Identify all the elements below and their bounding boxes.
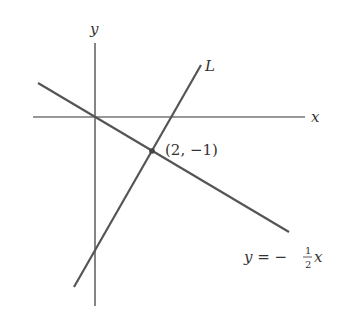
- point-label: (2, −1): [165, 141, 218, 159]
- intersection-point: [149, 148, 155, 154]
- x-axis-label: x: [311, 108, 320, 126]
- fraction-denominator: 2: [305, 259, 311, 270]
- line-equation-label: y = − 1 2 x: [243, 245, 323, 270]
- coordinate-diagram: y x L (2, −1) y = − 1 2 x: [0, 0, 339, 313]
- fraction-numerator: 1: [305, 245, 311, 256]
- line-L-label: L: [204, 57, 215, 75]
- line-y-equals-neg-half-x: [38, 83, 289, 232]
- equation-var: x: [314, 248, 323, 266]
- line-L: [74, 65, 201, 287]
- y-axis-label: y: [89, 20, 99, 38]
- equation-lhs: y = −: [243, 248, 287, 266]
